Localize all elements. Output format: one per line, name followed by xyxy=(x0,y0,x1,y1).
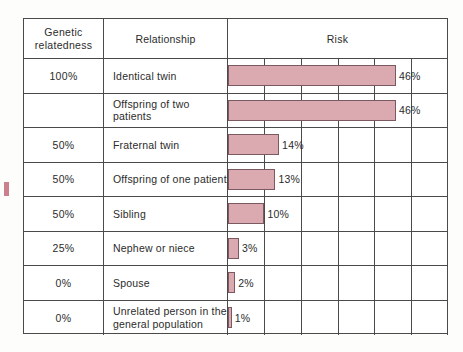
risk-bar-label: 13% xyxy=(278,173,300,185)
cell-genetic-relatedness: 0% xyxy=(24,266,104,300)
column-header-relationship: Relationship xyxy=(104,19,228,58)
risk-bar: 46% xyxy=(228,100,396,121)
table-row: 0% Spouse 2% xyxy=(24,266,447,301)
table-row: 50% Sibling 10% xyxy=(24,197,447,232)
cell-risk-bar: 46% xyxy=(228,59,447,93)
risk-bar-label: 46% xyxy=(399,70,421,82)
cell-risk-bar: 2% xyxy=(228,266,447,300)
risk-bar-label: 14% xyxy=(282,139,304,151)
risk-bar-label: 10% xyxy=(267,208,289,220)
gridline xyxy=(447,301,448,336)
risk-bar: 2% xyxy=(228,272,235,293)
risk-bar-label: 3% xyxy=(242,242,258,254)
cell-relationship: Sibling xyxy=(104,197,228,231)
gridline xyxy=(447,59,448,93)
cell-risk-bar: 13% xyxy=(228,163,447,197)
gridline xyxy=(447,266,448,300)
column-header-risk: Risk xyxy=(228,19,447,58)
risk-bar: 10% xyxy=(228,203,264,224)
scan-artifact-mark xyxy=(4,182,9,196)
cell-relationship-line2: general population xyxy=(113,318,227,331)
cell-relationship: Unrelated person in the general populati… xyxy=(104,301,228,336)
gridline xyxy=(447,197,448,231)
cell-relationship-line1: Unrelated person in the xyxy=(113,305,227,318)
cell-risk-bar: 46% xyxy=(228,94,447,128)
risk-bar: 1% xyxy=(228,307,232,328)
table-row: 50% Fraternal twin 14% xyxy=(24,128,447,163)
cell-relationship: Fraternal twin xyxy=(104,128,228,162)
cell-genetic-relatedness xyxy=(24,94,104,128)
table-row: Offspring of two patients 46% xyxy=(24,94,447,129)
cell-risk-bar: 10% xyxy=(228,197,447,231)
cell-risk-bar: 3% xyxy=(228,232,447,266)
cell-relationship: Offspring of two patients xyxy=(104,94,228,128)
table-row: 100% Identical twin 46% xyxy=(24,59,447,94)
gridline xyxy=(447,128,448,162)
genetic-header-line2: relatedness xyxy=(35,39,93,52)
cell-genetic-relatedness: 50% xyxy=(24,197,104,231)
cell-risk-bar: 14% xyxy=(228,128,447,162)
table-row: 25% Nephew or niece 3% xyxy=(24,232,447,267)
cell-relationship: Spouse xyxy=(104,266,228,300)
risk-bar: 3% xyxy=(228,238,239,259)
table-row: 50% Offspring of one patient 13% xyxy=(24,163,447,198)
risk-table-figure: Genetic relatedness Relationship Risk 10… xyxy=(23,18,448,334)
risk-bar-label: 1% xyxy=(235,312,251,324)
cell-genetic-relatedness: 50% xyxy=(24,163,104,197)
cell-genetic-relatedness: 0% xyxy=(24,301,104,336)
risk-bar: 14% xyxy=(228,134,279,155)
cell-relationship: Identical twin xyxy=(104,59,228,93)
cell-relationship: Nephew or niece xyxy=(104,232,228,266)
risk-bar: 13% xyxy=(228,169,275,190)
genetic-header-line1: Genetic xyxy=(35,26,93,39)
cell-genetic-relatedness: 50% xyxy=(24,128,104,162)
risk-bar: 46% xyxy=(228,65,396,86)
gridline xyxy=(447,163,448,197)
risk-bar-label: 2% xyxy=(238,277,254,289)
cell-risk-bar: 1% xyxy=(228,301,447,336)
risk-bar-label: 46% xyxy=(399,104,421,116)
table-row: 0% Unrelated person in the general popul… xyxy=(24,301,447,336)
column-header-genetic-relatedness: Genetic relatedness xyxy=(24,19,104,58)
table-header-row: Genetic relatedness Relationship Risk xyxy=(24,19,447,59)
gridline xyxy=(447,232,448,266)
cell-genetic-relatedness: 25% xyxy=(24,232,104,266)
gridline xyxy=(447,94,448,128)
cell-relationship: Offspring of one patient xyxy=(104,163,228,197)
cell-genetic-relatedness: 100% xyxy=(24,59,104,93)
